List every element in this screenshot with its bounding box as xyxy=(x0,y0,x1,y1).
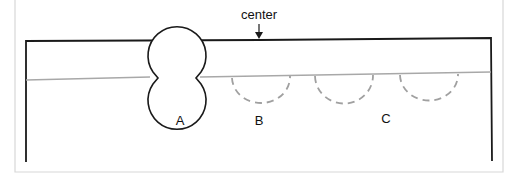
dashed-arc-b xyxy=(232,76,290,103)
container-box xyxy=(26,38,492,162)
center-arrow-head xyxy=(255,32,263,39)
dashed-arc-c2 xyxy=(400,74,458,100)
dashed-arc-c1 xyxy=(315,75,373,104)
diagram: center A B C xyxy=(0,0,519,178)
label-b: B xyxy=(255,113,264,128)
center-label: center xyxy=(241,7,278,22)
thread-line-left xyxy=(26,77,150,80)
label-a: A xyxy=(176,113,185,128)
thread-line-right xyxy=(200,72,491,77)
label-c: C xyxy=(381,111,390,126)
